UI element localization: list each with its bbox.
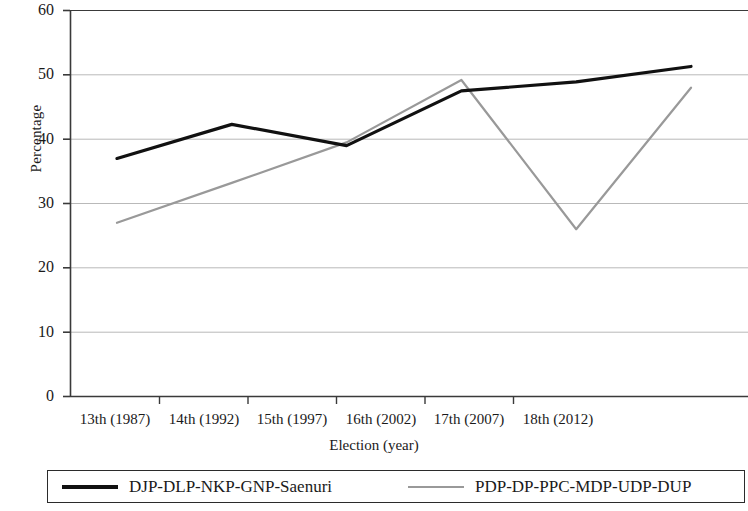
y-tick-label-10: 10 <box>14 324 54 340</box>
chart-legend: DJP-DLP-NKP-GNP-Saenuri PDP-DP-PPC-MDP-U… <box>47 470 745 503</box>
legend-line-swatch-light-icon <box>408 486 464 488</box>
x-tick-label-18th: 18th (2012) <box>503 411 613 428</box>
gridlines <box>70 11 748 333</box>
legend-entry-dark: DJP-DLP-NKP-GNP-Saenuri <box>62 471 332 502</box>
legend-entry-light: PDP-DP-PPC-MDP-UDP-DUP <box>408 471 691 502</box>
series-line-dark <box>117 66 691 158</box>
line-chart-figure: Percentage 60 50 40 30 20 10 0 13th (198… <box>0 0 748 511</box>
plot-area <box>0 0 748 511</box>
x-axis-title: Election (year) <box>0 437 748 454</box>
legend-label-light: PDP-DP-PPC-MDP-UDP-DUP <box>475 477 691 497</box>
legend-line-swatch-dark-icon <box>62 485 118 489</box>
y-tick-label-20: 20 <box>14 259 54 275</box>
series-line-light <box>117 80 691 229</box>
y-tick-label-30: 30 <box>14 195 54 211</box>
y-tick-label-40: 40 <box>14 131 54 147</box>
y-tick-marks <box>63 11 70 397</box>
y-tick-label-50: 50 <box>14 66 54 82</box>
legend-label-dark: DJP-DLP-NKP-GNP-Saenuri <box>129 477 332 497</box>
y-tick-label-60: 60 <box>14 2 54 18</box>
y-tick-label-0: 0 <box>14 388 54 404</box>
